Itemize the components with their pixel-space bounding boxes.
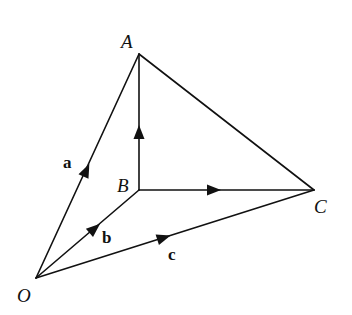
- vector-label-c: c: [168, 245, 176, 264]
- arrowhead-OA-icon: [78, 161, 94, 178]
- arrowhead-OC-icon: [156, 230, 173, 245]
- arrowhead-BC-icon: [207, 185, 221, 196]
- vertex-label-O: O: [17, 285, 31, 306]
- vector-diagram: A B C O a b c: [0, 0, 352, 315]
- vertex-label-C: C: [314, 196, 327, 217]
- vector-label-a: a: [63, 153, 72, 172]
- arrowhead-BA-icon: [134, 125, 145, 139]
- vector-label-b: b: [102, 228, 111, 247]
- edge-OC: [36, 190, 314, 278]
- edge-OB: [36, 190, 139, 278]
- vertex-label-A: A: [119, 31, 133, 52]
- edge-AC: [139, 54, 314, 190]
- vertex-label-B: B: [117, 175, 129, 196]
